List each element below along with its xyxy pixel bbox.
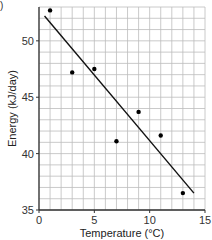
data-point [92, 67, 96, 71]
y-tick-label: 50 [22, 35, 34, 47]
y-tick-label: 45 [22, 91, 34, 103]
data-point [48, 8, 52, 12]
scatter-chart: 05101535404550 Temperature (°C) Energy (… [0, 0, 212, 240]
x-tick-label: 0 [36, 214, 42, 226]
data-point [159, 133, 163, 137]
x-tick-label: 5 [91, 214, 97, 226]
y-tick-label: 40 [22, 148, 34, 160]
x-tick-label: 10 [144, 214, 156, 226]
data-point [114, 139, 118, 143]
x-tick-label: 15 [199, 214, 211, 226]
y-tick-label: 35 [22, 204, 34, 216]
x-axis-label: Temperature (°C) [80, 227, 164, 239]
data-point [70, 70, 74, 74]
y-axis-label: Energy (kJ/day) [6, 70, 18, 147]
data-point [181, 191, 185, 195]
data-point [136, 110, 140, 114]
